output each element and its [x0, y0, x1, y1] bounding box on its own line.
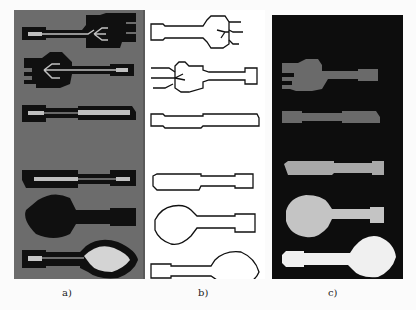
fork-2-silhouette	[24, 52, 134, 88]
panel-c-filled-regions	[272, 15, 403, 279]
knife-1-silhouette	[22, 105, 136, 122]
panel-b-caption: b)	[198, 287, 208, 298]
fork-region	[282, 59, 378, 91]
spoon-2-silhouette	[22, 240, 138, 279]
panel-a-silhouettes	[14, 10, 143, 279]
spoon-region-2	[282, 236, 396, 277]
contours-graphic	[145, 10, 265, 279]
filled-regions-graphic	[272, 15, 403, 279]
spoon-1-silhouette	[25, 194, 136, 238]
knife-region-2	[284, 161, 384, 175]
panel-b-contours	[145, 10, 265, 279]
spoon-region-1	[286, 195, 384, 237]
knife-region-1	[282, 111, 380, 123]
silhouettes-skeletons-graphic	[14, 10, 143, 279]
fork-1-silhouette	[22, 13, 136, 48]
knife-2-silhouette	[22, 170, 136, 188]
contours	[151, 16, 259, 279]
panel-c-caption: c)	[328, 287, 338, 298]
panel-a-caption: a)	[62, 287, 72, 298]
